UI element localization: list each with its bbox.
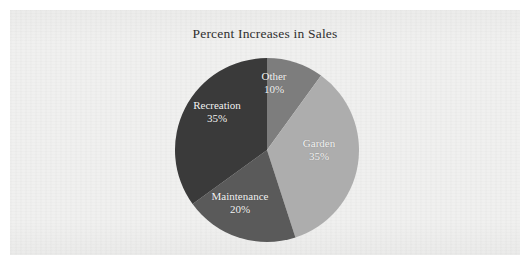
pie-label-other-name: Other (248, 70, 300, 83)
pie-label-recreation-value: 35% (174, 112, 260, 125)
pie-label-garden-name: Garden (286, 137, 352, 150)
pie-label-maintenance-value: 20% (190, 203, 290, 216)
chart-page: Percent Increases in Sales Other 10% Gar… (0, 0, 530, 273)
pie-label-maintenance: Maintenance 20% (190, 190, 290, 216)
pie-label-maintenance-name: Maintenance (190, 190, 290, 203)
pie-label-garden: Garden 35% (286, 137, 352, 163)
chart-title: Percent Increases in Sales (0, 26, 530, 42)
pie-label-recreation: Recreation 35% (174, 99, 260, 125)
pie-label-recreation-name: Recreation (174, 99, 260, 112)
pie-label-other-value: 10% (248, 83, 300, 96)
pie-label-garden-value: 35% (286, 150, 352, 163)
pie-label-other: Other 10% (248, 70, 300, 96)
